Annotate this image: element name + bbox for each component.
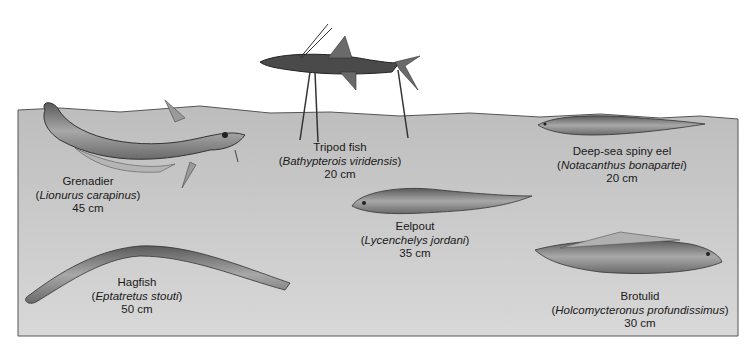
common-name: Grenadier xyxy=(36,175,141,189)
length: 20 cm xyxy=(279,168,402,182)
species-label-eelpout: Eelpout (Lycenchelys jordani) 35 cm xyxy=(361,220,469,261)
species-label-grenadier: Grenadier (Lionurus carapinus) 45 cm xyxy=(36,175,141,216)
scientific-name: (Holcomycteronus profundissimus) xyxy=(551,304,728,318)
species-label-spiny-eel: Deep-sea spiny eel (Notacanthus bonapart… xyxy=(557,145,687,186)
common-name: Hagfish xyxy=(92,276,183,290)
scientific-name: (Notacanthus bonapartei) xyxy=(557,159,687,173)
length: 35 cm xyxy=(361,247,469,261)
scientific-name: (Lycenchelys jordani) xyxy=(361,234,469,248)
common-name: Deep-sea spiny eel xyxy=(557,145,687,159)
scientific-name: (Bathypterois viridensis) xyxy=(279,155,402,169)
length: 45 cm xyxy=(36,202,141,216)
scientific-name: (Eptatretus stouti) xyxy=(92,290,183,304)
common-name: Eelpout xyxy=(361,220,469,234)
species-label-hagfish: Hagfish (Eptatretus stouti) 50 cm xyxy=(92,276,183,317)
species-label-brotulid: Brotulid (Holcomycteronus profundissimus… xyxy=(551,290,728,331)
length: 50 cm xyxy=(92,303,183,317)
deep-sea-scene: Grenadier (Lionurus carapinus) 45 cm Tri… xyxy=(0,0,752,346)
common-name: Tripod fish xyxy=(279,141,402,155)
common-name: Brotulid xyxy=(551,290,728,304)
length: 30 cm xyxy=(551,317,728,331)
length: 20 cm xyxy=(557,172,687,186)
scientific-name: (Lionurus carapinus) xyxy=(36,189,141,203)
species-label-tripod-fish: Tripod fish (Bathypterois viridensis) 20… xyxy=(279,141,402,182)
